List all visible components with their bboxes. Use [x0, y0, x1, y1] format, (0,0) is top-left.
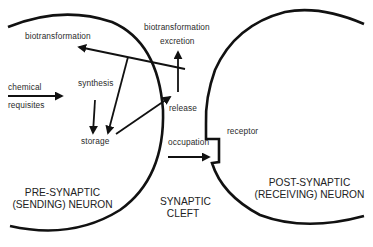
- label-occupation: occupation: [168, 137, 209, 147]
- pre-line-1: PRE-SYNAPTIC: [10, 187, 115, 199]
- synthesis-to-storage-arrow: [93, 100, 95, 133]
- cleft-line-2: CLEFT: [160, 208, 206, 220]
- to-biotransformation-arrow: [79, 47, 185, 69]
- synaptic-cleft-label: SYNAPTIC CLEFT: [160, 196, 206, 220]
- label-receptor: receptor: [227, 126, 258, 136]
- label-biotransformation-left: biotransformation: [25, 31, 91, 41]
- label-biotransformation-right: biotransformation: [144, 22, 210, 32]
- pre-line-2: (SENDING) NEURON: [10, 199, 115, 211]
- label-synthesis: synthesis: [78, 78, 114, 88]
- post-synaptic-neuron-label: POST-SYNAPTIC (RECEIVING) NEURON: [252, 177, 367, 201]
- label-release: release: [169, 103, 197, 113]
- pre-synaptic-neuron-label: PRE-SYNAPTIC (SENDING) NEURON: [10, 187, 115, 211]
- label-requisites: requisites: [8, 100, 45, 110]
- label-excretion: excretion: [160, 36, 195, 46]
- cleft-line-1: SYNAPTIC: [160, 196, 206, 208]
- label-chemical: chemical: [8, 82, 42, 92]
- post-line-2: (RECEIVING) NEURON: [252, 189, 367, 201]
- reuptake-to-storage-arrow: [108, 57, 128, 133]
- post-line-1: POST-SYNAPTIC: [252, 177, 367, 189]
- label-storage: storage: [81, 136, 109, 146]
